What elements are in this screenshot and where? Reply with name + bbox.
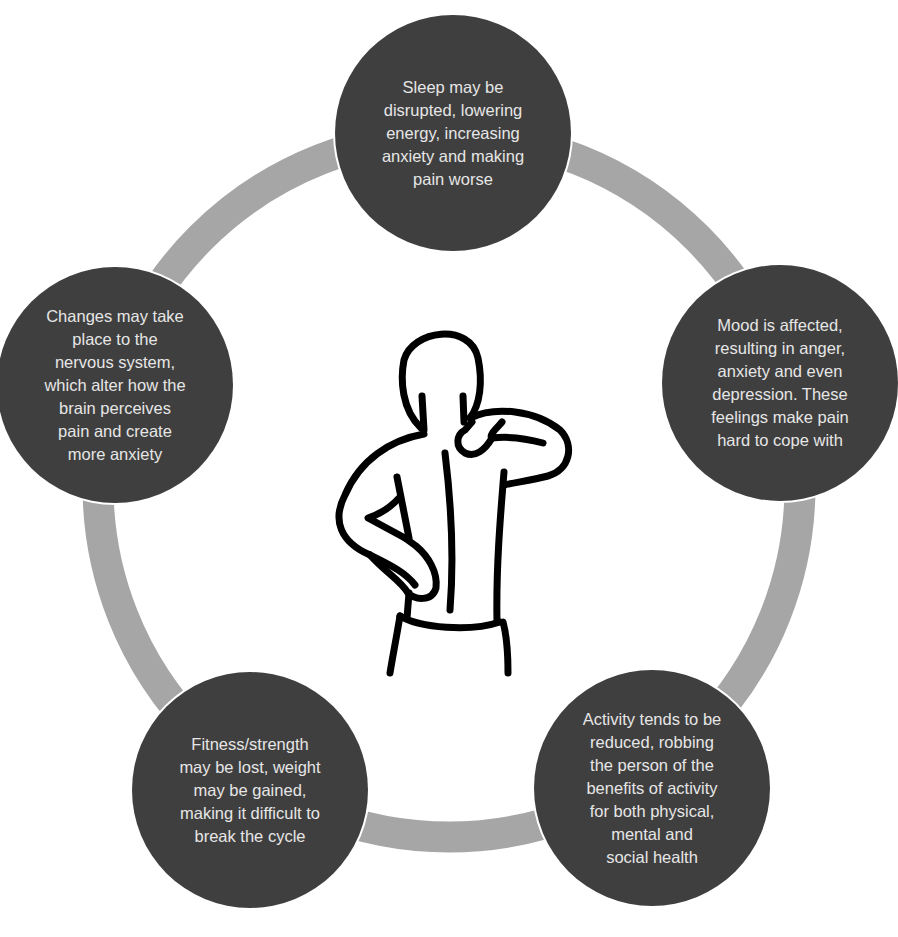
cycle-node-fitness: Fitness/strength may be lost, weight may… <box>132 672 368 908</box>
person-back-pain-icon <box>320 310 580 680</box>
node-text-nervous-system: Changes may take place to the nervous sy… <box>44 305 185 466</box>
node-text-sleep: Sleep may be disrupted, lowering energy,… <box>382 76 524 191</box>
cycle-node-mood: Mood is affected, resulting in anger, an… <box>662 265 898 501</box>
node-text-activity: Activity tends to be reduced, robbing th… <box>583 708 722 869</box>
node-text-mood: Mood is affected, resulting in anger, an… <box>711 314 849 452</box>
cycle-node-activity: Activity tends to be reduced, robbing th… <box>534 670 770 906</box>
cycle-node-sleep: Sleep may be disrupted, lowering energy,… <box>335 15 571 251</box>
node-text-fitness: Fitness/strength may be lost, weight may… <box>179 733 320 848</box>
cycle-node-nervous-system: Changes may take place to the nervous sy… <box>0 267 233 503</box>
